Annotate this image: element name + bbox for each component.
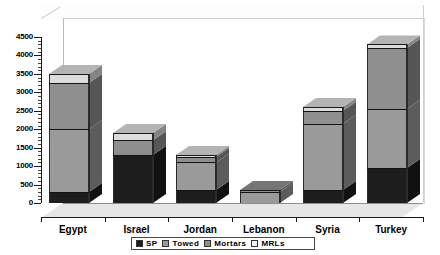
y-axis-tick-label: 3500 [3, 69, 33, 78]
bar-segment-divider [176, 157, 216, 158]
y-axis-tick [34, 203, 41, 204]
bar-segment-mortars[interactable] [113, 140, 153, 155]
y-axis-minor-tick [38, 63, 41, 64]
bar-segment-sp[interactable] [367, 168, 407, 203]
bar-segment-mrls[interactable] [113, 133, 153, 140]
bar-top-edge [176, 155, 216, 156]
bar-syria[interactable] [303, 0, 356, 255]
bar-side-face [89, 74, 103, 129]
y-axis-minor-tick [38, 122, 41, 123]
y-axis-minor-tick [38, 133, 41, 134]
y-axis-minor-tick [38, 103, 41, 104]
y-axis-minor-tick [38, 137, 41, 138]
legend-swatch-icon [204, 240, 211, 247]
legend-item-mortars[interactable]: Mortars [204, 239, 246, 248]
bar-side-face [407, 100, 421, 168]
y-axis-tick-label: 4000 [3, 50, 33, 59]
y-axis-minor-tick [38, 162, 41, 163]
y-axis-minor-tick [38, 199, 41, 200]
bar-segment-mortars[interactable] [49, 83, 89, 129]
y-axis-minor-tick [38, 118, 41, 119]
y-axis-minor-tick [38, 85, 41, 86]
y-axis-tick [34, 111, 41, 112]
y-axis-minor-tick [38, 96, 41, 97]
bar-segment-divider [240, 192, 280, 193]
bar-segment-sp[interactable] [113, 155, 153, 203]
x-axis-label-syria: Syria [296, 224, 360, 235]
y-axis-minor-tick [38, 144, 41, 145]
y-axis-minor-tick [38, 192, 41, 193]
x-axis-tick [296, 217, 297, 222]
chart-container: 050010001500200025003000350040004500 Egy… [0, 0, 440, 255]
bar-lebanon[interactable] [240, 0, 293, 255]
bar-segment-towed[interactable] [367, 109, 407, 168]
legend-label: MRLs [261, 239, 284, 248]
bar-israel[interactable] [113, 0, 166, 255]
y-axis-minor-tick [38, 181, 41, 182]
y-axis-minor-tick [38, 78, 41, 79]
x-axis-tick [232, 217, 233, 222]
bar-segment-towed[interactable] [49, 129, 89, 192]
bar-jordan[interactable] [176, 0, 229, 255]
y-axis-line [41, 37, 42, 203]
y-axis-minor-tick [38, 196, 41, 197]
y-axis-tick [34, 74, 41, 75]
bar-segment-towed[interactable] [303, 124, 343, 190]
y-axis-minor-tick [38, 67, 41, 68]
bar-top-edge [240, 190, 280, 191]
y-axis-minor-tick [38, 41, 41, 42]
legend-swatch-icon [162, 240, 169, 247]
bar-segment-sp[interactable] [176, 190, 216, 203]
bar-segment-towed[interactable] [176, 162, 216, 190]
bar-segment-mortars[interactable] [367, 48, 407, 109]
y-axis-minor-tick [38, 48, 41, 49]
y-axis-minor-tick [38, 170, 41, 171]
legend-item-sp[interactable]: SP [136, 239, 157, 248]
y-axis-tick-label: 2500 [3, 106, 33, 115]
y-axis-minor-tick [38, 155, 41, 156]
bar-segment-divider [176, 162, 216, 163]
y-axis-tick [34, 92, 41, 93]
bar-segment-divider [113, 140, 153, 141]
bar-segment-divider [367, 168, 407, 169]
bar-side-face [343, 115, 357, 190]
bar-side-face [89, 120, 103, 192]
legend-item-towed[interactable]: Towed [162, 239, 199, 248]
bar-segment-divider [303, 124, 343, 125]
y-axis-minor-tick [38, 126, 41, 127]
bar-top-edge [303, 107, 343, 108]
bar-segment-divider [367, 109, 407, 110]
bar-egypt[interactable] [49, 0, 102, 255]
y-axis-tick [34, 185, 41, 186]
bar-side-face [153, 146, 167, 203]
y-axis-tick [34, 55, 41, 56]
bar-segment-towed[interactable] [240, 192, 280, 203]
bar-segment-sp[interactable] [303, 190, 343, 203]
plot-right-wall [423, 5, 424, 203]
bar-segment-divider [303, 111, 343, 112]
bar-segment-divider [113, 155, 153, 156]
legend-item-mrls[interactable]: MRLs [251, 239, 284, 248]
x-axis-tick [105, 217, 106, 222]
y-axis-tick-label: 500 [3, 180, 33, 189]
chart-legend: SPTowedMortarsMRLs [131, 237, 315, 250]
y-axis-minor-tick [38, 100, 41, 101]
y-axis-minor-tick [38, 107, 41, 108]
y-axis-minor-tick [38, 188, 41, 189]
x-axis-label-egypt: Egypt [41, 224, 105, 235]
y-axis-tick [34, 129, 41, 130]
bar-segment-mortars[interactable] [303, 111, 343, 124]
bar-segment-divider [49, 129, 89, 130]
bar-turkey[interactable] [367, 0, 420, 255]
bar-side-face [407, 39, 421, 109]
x-axis-label-jordan: Jordan [168, 224, 232, 235]
y-axis-tick-label: 1000 [3, 161, 33, 170]
y-axis-minor-tick [38, 81, 41, 82]
bar-segment-sp[interactable] [49, 192, 89, 203]
bar-segment-divider [303, 190, 343, 191]
bar-segment-divider [49, 83, 89, 84]
y-axis-minor-tick [38, 177, 41, 178]
bar-segment-mrls[interactable] [49, 74, 89, 83]
x-axis-label-turkey: Turkey [359, 224, 423, 235]
y-axis-minor-tick [38, 70, 41, 71]
